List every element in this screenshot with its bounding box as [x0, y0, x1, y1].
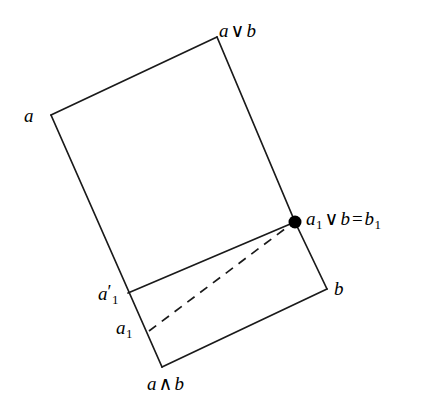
vertex-label-a1: a1 — [116, 318, 132, 341]
edge-a-to-a-join-b — [51, 37, 217, 115]
join-operator-icon: ∨ — [229, 20, 247, 41]
label-var-b: b — [340, 208, 350, 229]
edge-a1-to-b1-dashed — [149, 225, 290, 331]
vertex-label-a-join-b: a∨b — [219, 21, 256, 40]
label-var-a: a — [147, 373, 157, 394]
join-point-dot — [289, 216, 302, 229]
edge-b-to-a-meet-b — [162, 289, 327, 367]
label-subscript-1: 1 — [111, 292, 118, 307]
lattice-diagram-canvas — [0, 0, 431, 407]
meet-operator-icon: ∧ — [157, 373, 175, 394]
label-var-a: a — [116, 317, 126, 338]
label-var-a: a — [306, 208, 316, 229]
join-operator-icon: ∨ — [322, 208, 340, 229]
vertex-label-a1-join-b-eq-b1: a1∨b=b1 — [306, 209, 381, 232]
vertex-label-a-meet-b: a∧b — [147, 374, 184, 393]
label-subscript-1: 1 — [126, 326, 133, 341]
vertex-label-a1-prime: a′1 — [98, 283, 118, 307]
edge-b1-to-b — [295, 222, 327, 289]
edge-a1-prime-to-b1 — [128, 222, 295, 293]
label-var-a: a — [219, 20, 229, 41]
vertex-label-a: a — [24, 106, 34, 125]
label-var-b: b — [246, 20, 256, 41]
label-subscript-1b: 1 — [374, 217, 381, 232]
label-var-b: b — [174, 373, 184, 394]
lattice-diagram-figure: a a∨b a1∨b=b1 b a′1 a1 a∧b — [0, 0, 431, 407]
label-var-b2: b — [365, 208, 375, 229]
edge-a-join-b-to-b1 — [217, 37, 295, 222]
label-var-a: a — [98, 283, 108, 304]
edge-a-meet-b-to-a — [51, 115, 162, 367]
equals-operator-icon: = — [350, 208, 365, 229]
vertex-label-b: b — [334, 279, 344, 298]
label-text-b: b — [334, 278, 344, 299]
label-text-a: a — [24, 105, 34, 126]
